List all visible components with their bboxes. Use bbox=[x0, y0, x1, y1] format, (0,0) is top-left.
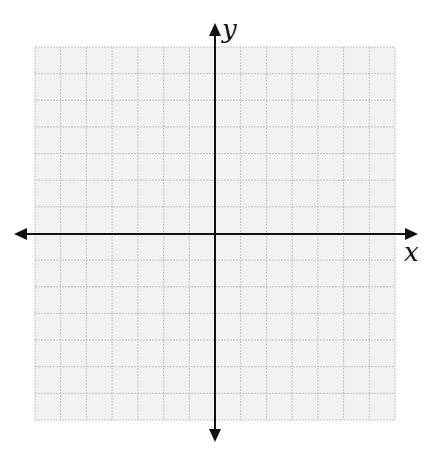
y-axis-label: y bbox=[221, 14, 237, 44]
arrow-up-icon bbox=[209, 23, 221, 36]
arrow-down-icon bbox=[209, 429, 221, 442]
coordinate-plane: y x bbox=[0, 0, 428, 457]
x-axis-label: x bbox=[404, 237, 419, 267]
arrow-left-icon bbox=[14, 228, 27, 240]
